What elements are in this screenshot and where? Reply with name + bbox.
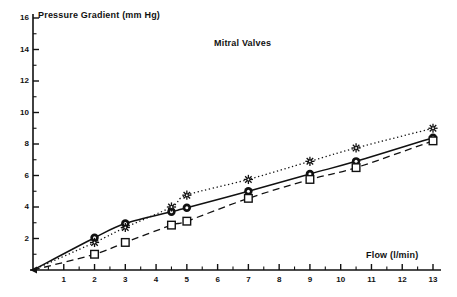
marker-open-square	[91, 250, 99, 258]
marker-star	[121, 223, 130, 232]
x-tick-label: 5	[175, 275, 199, 284]
y-tick-label: 10	[8, 108, 29, 117]
x-tick-label: 7	[236, 275, 260, 284]
marker-open-square	[306, 176, 314, 184]
series-star-series	[33, 124, 438, 270]
marker-open-square	[352, 164, 360, 172]
series-circle-series	[33, 134, 437, 271]
series-square-series	[33, 137, 437, 270]
x-tick-label: 13	[421, 275, 445, 284]
x-tick-label: 3	[113, 275, 137, 284]
marker-star	[90, 238, 99, 247]
marker-star	[244, 175, 253, 184]
marker-inner-dot	[185, 206, 188, 209]
y-tick-label: 4	[8, 202, 29, 211]
series-layer	[33, 124, 438, 270]
marker-inner-dot	[247, 190, 250, 193]
x-tick-label: 8	[267, 275, 291, 284]
marker-open-square	[122, 239, 130, 247]
x-tick-label: 1	[52, 275, 76, 284]
y-tick-label: 6	[8, 171, 29, 180]
marker-star	[182, 191, 191, 200]
marker-inner-dot	[355, 160, 358, 163]
marker-open-square	[429, 137, 437, 145]
x-tick-label: 9	[298, 275, 322, 284]
x-tick-label: 12	[390, 275, 414, 284]
y-tick-label: 12	[8, 76, 29, 85]
marker-star	[428, 124, 437, 133]
y-tick-label: 14	[8, 45, 29, 54]
x-tick-label: 10	[329, 275, 353, 284]
marker-open-square	[245, 195, 253, 203]
marker-star	[167, 202, 176, 211]
marker-star	[351, 143, 360, 152]
x-tick-label: 6	[206, 275, 230, 284]
y-tick-label: 16	[8, 13, 29, 22]
y-tick-label: 8	[8, 139, 29, 148]
marker-star	[305, 157, 314, 166]
marker-open-square	[168, 221, 176, 229]
marker-open-square	[183, 217, 191, 225]
chart-figure: Pressure Gradient (mm Hg) Mitral Valves …	[0, 0, 457, 297]
x-tick-label: 2	[83, 275, 107, 284]
x-tick-label: 4	[144, 275, 168, 284]
x-tick-label: 11	[359, 275, 383, 284]
series-line-star-series	[33, 128, 433, 270]
y-tick-label: 2	[8, 234, 29, 243]
plot-canvas	[0, 0, 457, 297]
axis-layer	[30, 14, 441, 274]
